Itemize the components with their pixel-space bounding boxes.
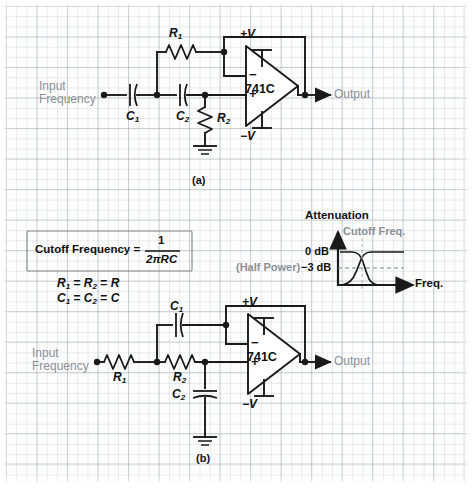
supply-positive-label-b: +V <box>242 296 257 309</box>
equation-capacitors: C1 = C2 = C <box>57 292 119 307</box>
formula-denominator: 2πRC <box>146 253 177 266</box>
output-label-b: Output <box>334 355 370 368</box>
resistor-r1-label-b: R1 <box>113 371 126 386</box>
graph-title-attenuation: Attenuation <box>305 209 369 222</box>
input-frequency-label-a: Input Frequency <box>39 80 96 107</box>
supply-negative-label-b: −V <box>242 398 257 411</box>
cutoff-frequency-annotation: Cutoff Freq. <box>343 225 405 237</box>
resistor-r2-label-b: R2 <box>173 371 186 386</box>
cutoff-frequency-formula-label: Cutoff Frequency = <box>35 243 140 256</box>
capacitor-c1-label-b: C1 <box>170 300 183 315</box>
resistor-r1-label-a: R1 <box>169 27 182 42</box>
equation-resistors: R1 = R2 = R <box>57 277 119 292</box>
circuit-a-wires <box>101 37 330 154</box>
y-tick-minus3db: −3 dB <box>301 261 331 273</box>
resistor-r1-a <box>166 45 196 59</box>
y-tick-0db: 0 dB <box>305 245 329 257</box>
resistor-r2-b <box>165 355 195 369</box>
input-frequency-label-b: Input Frequency <box>32 347 89 374</box>
supply-positive-label-a: +V <box>240 28 255 41</box>
resistor-r2-a <box>198 107 212 133</box>
inverting-input-symbol-b: − <box>251 336 259 351</box>
circuit-b-wires <box>94 306 330 445</box>
capacitor-c1-label-a: C1 <box>126 110 139 125</box>
inverting-input-symbol-a: − <box>249 68 257 83</box>
output-label-a: Output <box>334 88 370 101</box>
resistor-r1-b <box>104 355 134 369</box>
opamp-part-label-b: 741C <box>247 350 277 364</box>
attenuation-graph <box>337 232 413 292</box>
half-power-annotation: (Half Power) <box>236 261 300 273</box>
formula-numerator: 1 <box>158 234 164 247</box>
panel-a-caption: (a) <box>192 174 205 186</box>
panel-b-caption: (b) <box>196 452 210 464</box>
figure-canvas: Input Frequency R1 R2 C1 C2 +V −V − + 74… <box>0 0 472 491</box>
capacitor-c2-label-b: C2 <box>172 388 185 403</box>
capacitor-c2-label-a: C2 <box>176 110 189 125</box>
opamp-part-label-a: 741C <box>245 82 275 96</box>
supply-negative-label-a: −V <box>240 130 255 143</box>
resistor-r2-label-a: R2 <box>217 112 230 127</box>
x-axis-label-freq: Freq. <box>415 277 443 290</box>
